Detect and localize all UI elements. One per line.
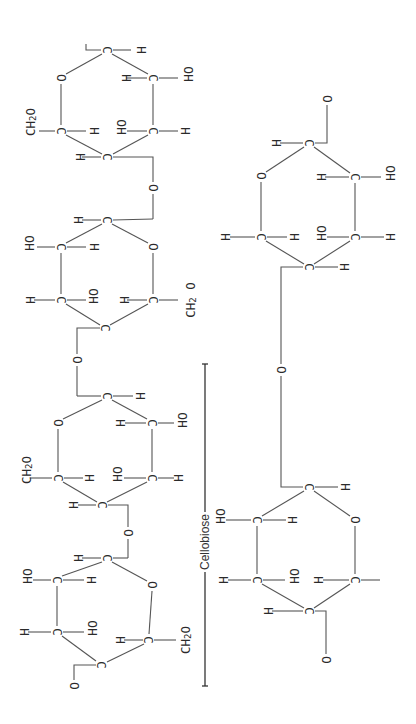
hydrogen-atom: H [117, 296, 132, 304]
carbon-atom: C [100, 46, 115, 54]
glycosidic-oxygen-atom: O [121, 529, 136, 537]
hydrogen-atom: H [23, 296, 38, 304]
hydroxyl-group: OH [314, 225, 329, 241]
hydroxymethyl-group: CH2 O [183, 282, 199, 318]
hydroxyl-group: OH [20, 568, 35, 584]
carbon-atom: C [348, 233, 363, 241]
hydrogen-atom: H [134, 46, 149, 54]
carbon-atom: C [94, 661, 109, 669]
hydroxyl-group: OH [175, 412, 190, 428]
hydrogen-atom: H [113, 636, 128, 644]
hydrogen-atom: H [338, 483, 353, 491]
hydrogen-atom: H [73, 153, 88, 161]
carbon-atom: C [100, 216, 115, 224]
hydrogen-atom: H [218, 233, 233, 241]
hydrogen-atom: H [84, 576, 99, 584]
terminal-oxygen-atom: O [320, 95, 335, 103]
hydrogen-atom: H [119, 74, 134, 82]
carbon-atom: C [54, 243, 69, 251]
hydroxyl-group: OH [213, 508, 228, 524]
carbon-atom: C [51, 474, 66, 482]
carbon-atom: C [250, 576, 265, 584]
carbon-atom: C [302, 139, 317, 147]
hydroxyl-group: OH [287, 568, 302, 584]
hydrogen-atom: H [261, 607, 276, 615]
hydrogen-atom: H [285, 516, 300, 524]
terminal-oxygen-atom: O [67, 682, 82, 690]
hydrogen-atom: H [17, 628, 32, 636]
cellobiose-label: Cellobiose [198, 514, 212, 570]
hydrogen-atom: H [71, 216, 86, 224]
hydroxyl-group: OH [85, 620, 100, 636]
carbon-atom: C [145, 419, 160, 427]
carbon-atom: C [100, 153, 115, 161]
hydroxymethyl-group: CH2O [19, 456, 35, 484]
hydroxyl-group: OH [383, 165, 398, 181]
ring-oxygen-atom: O [348, 516, 363, 524]
carbon-atom: C [145, 474, 160, 482]
hydrogen-atom: H [216, 576, 231, 584]
hydroxyl-group: OH [86, 288, 101, 304]
carbon-atom: C [50, 628, 65, 636]
hydrogen-atom: H [287, 233, 302, 241]
carbon-atom: C [146, 296, 161, 304]
hydrogen-atom: H [178, 127, 193, 135]
ring-oxygen-atom: O [145, 581, 160, 589]
hydrogen-atom: H [311, 576, 326, 584]
hydrogen-atom: H [87, 127, 102, 135]
carbon-atom: C [141, 636, 156, 644]
carbon-atom: C [100, 392, 115, 400]
cellulose-structure-diagram: C H C H OH O C OH H C H C H CH2O O C H O… [0, 0, 416, 724]
ring-oxygen-atom: O [146, 243, 161, 251]
hydroxymethyl-group: CH2O [23, 108, 39, 136]
carbon-atom: C [254, 233, 269, 241]
carbon-atom: C [95, 501, 110, 509]
carbon-atom: C [100, 554, 115, 562]
hydroxyl-group: OH [114, 119, 129, 135]
hydroxymethyl-group: CH2O [178, 626, 194, 654]
hydrogen-atom: H [171, 474, 186, 482]
ring-oxygen-atom: O [51, 419, 66, 427]
hydrogen-atom: H [82, 474, 97, 482]
hydrogen-atom: H [133, 392, 148, 400]
carbon-atom: C [50, 576, 65, 584]
carbon-atom: C [54, 127, 69, 135]
hydrogen-atom: H [314, 173, 329, 181]
hydrogen-atom: H [87, 243, 102, 251]
terminal-oxygen-atom: O [319, 656, 334, 664]
glycosidic-oxygen-atom: O [274, 366, 289, 374]
carbon-atom: C [98, 324, 113, 332]
carbon-atom: C [302, 483, 317, 491]
carbon-atom: C [302, 263, 317, 271]
hydroxyl-group: OH [22, 235, 37, 251]
glycosidic-oxygen-atom: O [146, 184, 161, 192]
hydrogen-atom: H [71, 554, 86, 562]
carbon-atom: C [250, 516, 265, 524]
carbon-atom: C [146, 127, 161, 135]
carbon-atom: C [54, 296, 69, 304]
ring-oxygen-atom: O [54, 74, 69, 82]
hydroxyl-group: OH [181, 66, 196, 82]
carbon-atom: C [302, 607, 317, 615]
carbon-atom: C [146, 74, 161, 82]
hydrogen-atom: H [269, 139, 284, 147]
carbon-atom: C [348, 576, 363, 584]
hydrogen-atom: H [383, 233, 398, 241]
hydrogen-atom: H [337, 263, 352, 271]
hydroxyl-group: OH [110, 466, 125, 482]
carbon-atom: C [348, 173, 363, 181]
hydrogen-atom: H [113, 419, 128, 427]
ring-oxygen-atom: O [254, 172, 269, 180]
glycosidic-oxygen-atom: O [70, 356, 85, 364]
hydrogen-atom: H [66, 501, 81, 509]
